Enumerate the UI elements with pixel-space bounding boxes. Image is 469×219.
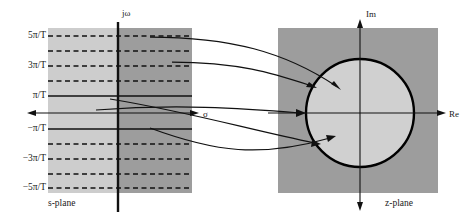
s-plane-tick-neg-pi: −π/T <box>4 124 46 134</box>
im-axis-label: Im <box>366 10 376 19</box>
s-plane-tick-neg-3pi: −3π/T <box>4 154 46 164</box>
sigma-axis-label: σ <box>203 110 208 119</box>
s-plane-tick-3pi: 3π/T <box>8 61 46 71</box>
figure-canvas: 5π/T 3π/T π/T −π/T −3π/T −5π/T jω σ Im R… <box>0 0 469 219</box>
z-plane-regions <box>278 28 438 193</box>
s-plane-tick-5pi: 5π/T <box>8 31 46 41</box>
s-plane-right-half-region <box>118 28 192 193</box>
im-axis-arrow-up <box>357 19 363 28</box>
z-plane-label: z-plane <box>385 199 413 209</box>
re-axis-arrow-right <box>437 110 446 116</box>
s-plane-to-z-plane-diagram <box>0 0 469 219</box>
s-plane-tick-neg-5pi: −5π/T <box>4 183 46 193</box>
sigma-axis-arrow-left <box>27 110 36 116</box>
im-axis-arrow-down <box>357 202 363 211</box>
re-axis-label: Re <box>449 110 459 119</box>
s-plane-left-half-region <box>48 28 118 193</box>
j-omega-axis-label: jω <box>122 9 130 18</box>
s-plane-label: s-plane <box>48 199 75 209</box>
s-plane-tick-pi: π/T <box>8 91 46 101</box>
